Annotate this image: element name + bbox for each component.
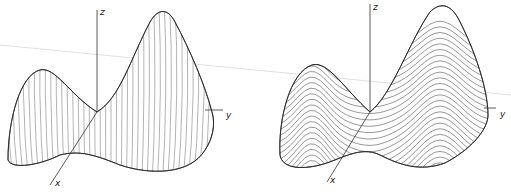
right-x-axis-label: x bbox=[329, 175, 336, 185]
right-z-axis-label: z bbox=[372, 2, 378, 12]
hatch-line bbox=[78, 0, 80, 192]
left-panel-vertical-hatching: z y x bbox=[7, 0, 232, 192]
hatch-line bbox=[208, 0, 215, 192]
hatch-line bbox=[84, 0, 86, 192]
saddle-surface-figure: z y x z y x bbox=[0, 0, 511, 192]
right-panel-contour-lines: z y x bbox=[270, 2, 506, 192]
left-z-axis-label: z bbox=[99, 7, 105, 17]
left-y-axis-label: y bbox=[225, 110, 232, 120]
left-x-axis-label: x bbox=[54, 178, 61, 188]
hatch-line bbox=[95, 0, 96, 192]
right-y-axis-label: y bbox=[499, 109, 506, 119]
contour-line bbox=[270, 174, 500, 192]
hatch-line bbox=[89, 0, 90, 192]
contour-line bbox=[270, 168, 500, 192]
hatch-line bbox=[100, 0, 101, 192]
